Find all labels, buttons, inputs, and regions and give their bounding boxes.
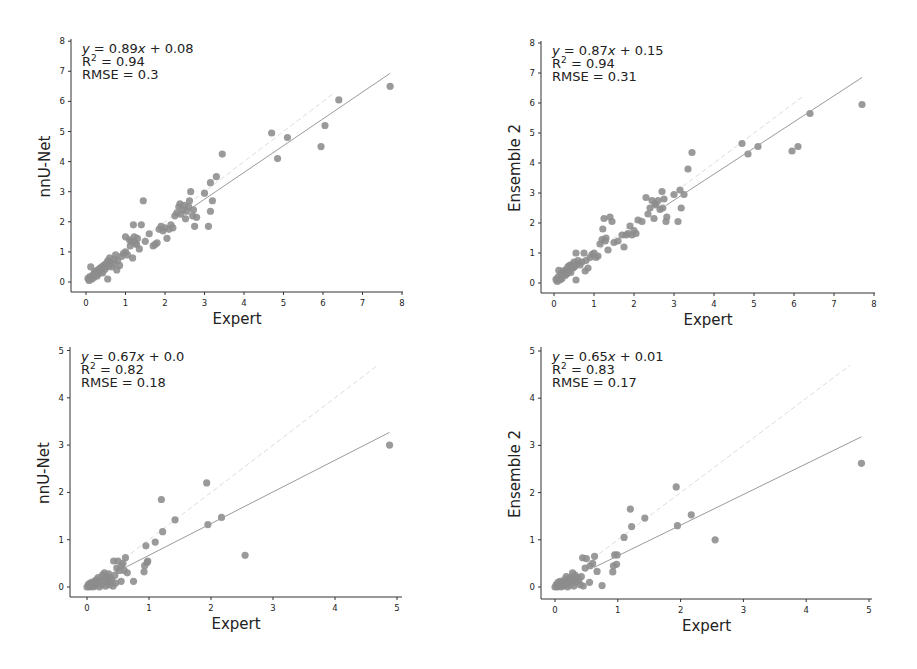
data-point [620,243,627,250]
data-point [584,264,591,271]
x-tick-label: 1 [591,299,596,309]
regression-line [125,432,389,567]
data-point [159,528,166,535]
x-tick-label: 4 [803,605,808,615]
data-point [674,218,681,225]
data-point [658,188,665,195]
scatter-panel-top-right: 012345678012345678ExpertEnsemble 2y = 0.… [506,38,877,329]
data-point [572,276,579,283]
data-point [268,129,275,136]
y-axis-label: Ensemble 2 [506,124,524,212]
data-point [688,511,695,518]
x-tick-label: 7 [831,299,836,309]
data-point [738,140,745,147]
data-point [171,516,178,523]
y-tick-label: 2 [59,487,64,497]
scatter-panel-bottom-left: 012345012345ExpertnnU-Nety = 0.67x + 0.0… [35,346,402,634]
regression-line [666,78,862,206]
data-point [794,143,801,150]
data-point [130,221,137,228]
data-point [201,190,208,197]
x-axis-label: Expert [212,310,261,328]
x-tick-label: 1 [123,298,128,308]
y-tick-label: 8 [530,38,535,48]
data-point [207,179,214,186]
data-point [660,195,667,202]
data-point [203,479,210,486]
data-point [186,197,193,204]
data-point [604,246,611,253]
data-point [140,197,147,204]
data-point [152,538,159,545]
x-tick-label: 4 [241,298,246,308]
data-point [670,191,677,198]
x-tick-label: 5 [751,299,756,309]
data-point [209,197,216,204]
data-point [130,578,137,585]
data-point [321,122,328,129]
data-point [146,230,153,237]
x-tick-label: 5 [866,605,871,615]
y-tick-label: 0 [530,278,535,288]
y-tick-label: 4 [59,393,64,403]
data-point [386,442,393,449]
y-tick-label: 3 [530,440,535,450]
y-tick-label: 3 [60,187,65,197]
data-point [274,155,281,162]
data-point [134,235,141,242]
data-point [613,561,620,568]
data-point [580,582,587,589]
data-point [650,215,657,222]
y-tick-label: 5 [530,128,535,138]
data-point [205,223,212,230]
y-tick-label: 1 [530,535,535,545]
data-point [599,582,606,589]
data-point [116,262,123,269]
data-points [83,442,393,591]
x-tick-label: 2 [162,298,167,308]
data-point [620,534,627,541]
data-point [602,234,609,241]
y-tick-label: 2 [530,488,535,498]
y-tick-label: 3 [530,188,535,198]
data-point [599,225,606,232]
y-tick-label: 1 [59,535,64,545]
y-tick-label: 0 [60,277,65,287]
data-point [583,555,590,562]
data-point [663,213,670,220]
y-tick-label: 2 [530,218,535,228]
y-tick-label: 4 [530,158,535,168]
data-point [158,496,165,503]
x-tick-label: 3 [202,298,207,308]
data-point [136,245,143,252]
data-point [572,249,579,256]
data-point [614,237,621,244]
data-point [591,553,598,560]
data-point [678,204,685,211]
y-tick-label: 7 [530,68,535,78]
data-point [580,249,587,256]
data-point [191,223,198,230]
data-point [124,569,131,576]
data-point [654,197,661,204]
data-point [140,568,147,575]
data-point [219,150,226,157]
x-tick-label: 3 [671,299,676,309]
y-tick-label: 5 [59,346,64,356]
x-tick-label: 5 [394,603,399,613]
data-point [589,560,596,567]
data-point [609,568,616,575]
x-tick-label: 8 [871,299,876,309]
regression-line [193,73,391,207]
data-point [586,579,593,586]
data-point [138,221,145,228]
data-point [129,254,136,261]
data-point [187,188,194,195]
y-tick-label: 4 [60,157,65,167]
data-point [122,554,129,561]
data-point [193,214,200,221]
data-points [551,460,865,591]
data-point [632,230,639,237]
x-tick-label: 0 [551,299,556,309]
x-tick-label: 6 [320,298,325,308]
